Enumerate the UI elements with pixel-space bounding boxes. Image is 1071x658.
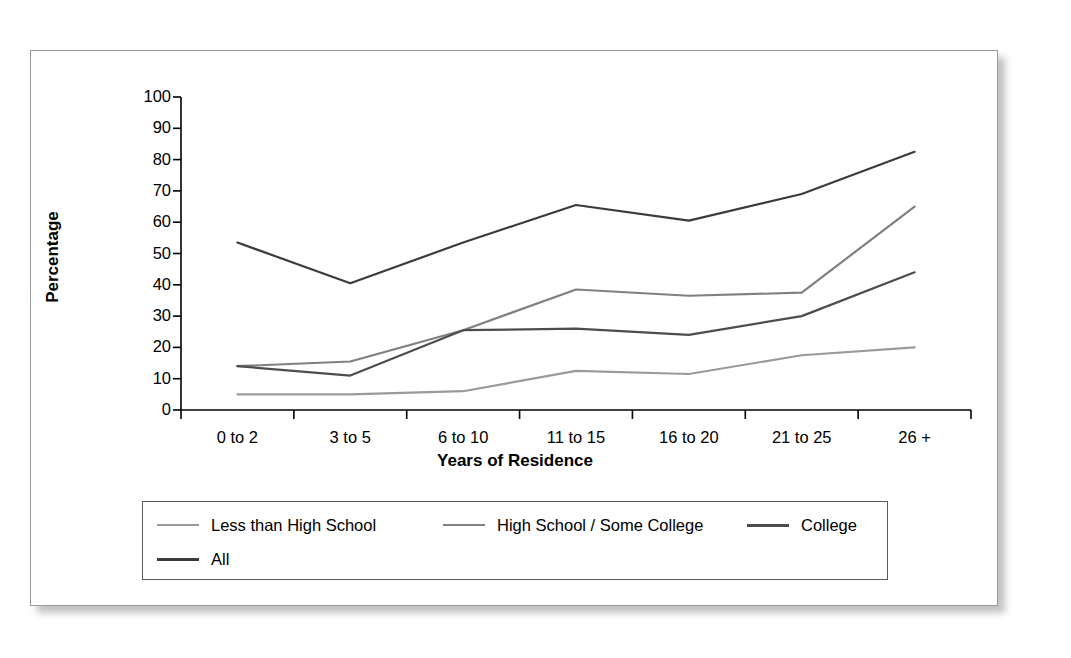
y-tick-label: 90 (111, 118, 171, 137)
series-line-0 (237, 347, 914, 394)
x-tick-label: 6 to 10 (407, 428, 520, 447)
y-tick-label: 10 (111, 369, 171, 388)
legend-line-icon (747, 524, 789, 527)
y-axis-title: Percentage (43, 177, 63, 337)
series-line-2 (237, 272, 914, 375)
legend-entry: All (157, 546, 229, 572)
figure-root: 1009080706050403020100 0 to 23 to 56 to … (0, 0, 1071, 658)
legend-line-icon (157, 558, 199, 561)
legend-entry: High School / Some College (443, 512, 703, 538)
y-tick-label: 40 (111, 275, 171, 294)
legend-line-icon (443, 524, 485, 526)
x-tick-label: 21 to 25 (745, 428, 858, 447)
legend: Less than High SchoolHigh School / Some … (142, 501, 888, 580)
legend-entry: College (747, 512, 857, 538)
x-tick-label: 16 to 20 (632, 428, 745, 447)
legend-label: All (211, 550, 229, 569)
y-tick-label: 50 (111, 244, 171, 263)
x-axis-title: Years of Residence (31, 451, 999, 471)
x-tick-label: 11 to 15 (520, 428, 633, 447)
y-tick-label: 70 (111, 181, 171, 200)
y-tick-label: 80 (111, 150, 171, 169)
y-tick-label: 60 (111, 212, 171, 231)
legend-line-icon (157, 524, 199, 526)
legend-entry: Less than High School (157, 512, 376, 538)
y-tick-label: 20 (111, 337, 171, 356)
x-tick-label: 26 + (858, 428, 971, 447)
series-line-3 (237, 152, 914, 283)
legend-row-top: Less than High SchoolHigh School / Some … (143, 512, 889, 542)
x-tick-label: 3 to 5 (294, 428, 407, 447)
x-tick-label: 0 to 2 (181, 428, 294, 447)
legend-label: College (801, 516, 857, 535)
y-tick-label: 30 (111, 306, 171, 325)
y-tick-label: 100 (111, 87, 171, 106)
legend-row-bottom: All (143, 546, 889, 576)
plot-area: 1009080706050403020100 0 to 23 to 56 to … (31, 51, 999, 607)
y-tick-label: 0 (111, 400, 171, 419)
chart-panel: 1009080706050403020100 0 to 23 to 56 to … (30, 50, 998, 606)
legend-label: High School / Some College (497, 516, 703, 535)
series-line-1 (237, 207, 914, 367)
legend-label: Less than High School (211, 516, 376, 535)
